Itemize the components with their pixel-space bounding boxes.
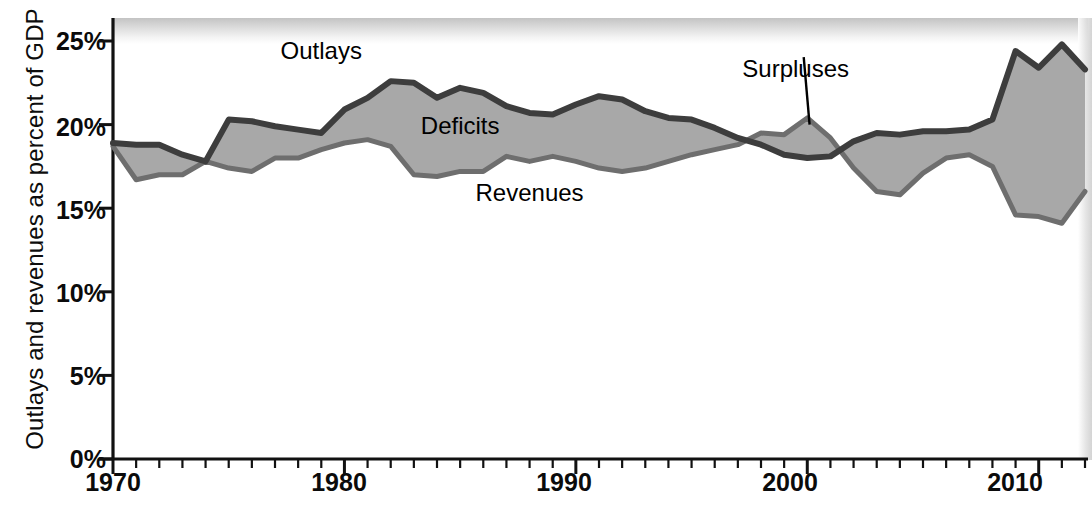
plot-area <box>0 0 1092 522</box>
annotation-surpluses: Surpluses <box>742 55 849 83</box>
annotation-deficits: Deficits <box>421 112 500 140</box>
annotation-revenues: Revenues <box>476 179 584 207</box>
annotation-outlays: Outlays <box>281 37 362 65</box>
chart-figure: Outlays and revenues as percent of GDP 2… <box>0 0 1092 522</box>
